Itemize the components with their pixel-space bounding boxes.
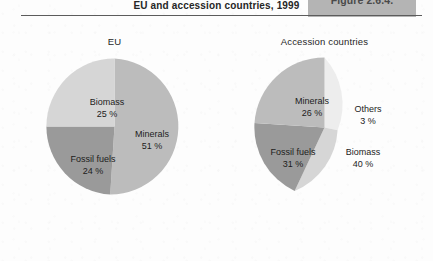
- figure-title: EU and accession countries, 1999: [0, 0, 433, 13]
- pie-chart-accession: Minerals 26 % Others 3 % Biomass 40 % Fo…: [253, 56, 396, 199]
- pie-chart-eu: Biomass 25 % Minerals 51 % Fossil fuels …: [45, 57, 184, 196]
- pie-slice-biomass-eu[interactable]: [46, 58, 114, 126]
- header-divider: [21, 15, 422, 16]
- pie-slice-minerals-eu[interactable]: [110, 58, 178, 194]
- figure-page: Figure 2.6.4. EU and accession countries…: [0, 0, 433, 261]
- pie-svg-eu: [45, 57, 184, 196]
- pie-caption-accession: Accession countries: [222, 36, 427, 48]
- pie-slice-fossil-fuels-eu[interactable]: [46, 127, 114, 195]
- pie-slice-minerals-accession[interactable]: [254, 57, 324, 127]
- pie-panel-eu: EU Biomass 25 % Minerals 51 % Fossil fue…: [12, 36, 217, 196]
- pie-panel-accession: Accession countries Minerals 26 % Others…: [222, 36, 427, 199]
- pie-caption-eu: EU: [12, 36, 217, 48]
- pie-slice-others-accession[interactable]: [325, 57, 343, 130]
- pie-svg-accession: [253, 56, 396, 199]
